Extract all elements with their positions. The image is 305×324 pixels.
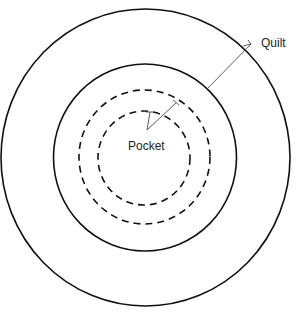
quilt-label: Quilt xyxy=(261,36,286,50)
outer-quilt-ring xyxy=(1,9,290,306)
quilt-leader xyxy=(208,40,251,88)
inner-pocket-ring xyxy=(98,111,190,205)
inner-quilt-ring xyxy=(54,64,237,251)
concentric-rings-diagram: Quilt Pocket xyxy=(0,0,305,324)
pocket-leader xyxy=(146,100,179,130)
pocket-label: Pocket xyxy=(128,139,165,153)
